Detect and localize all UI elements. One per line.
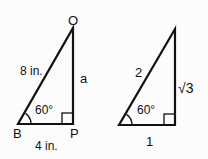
triangle-bop: O B P 8 in. a 4 in. 60°: [13, 13, 88, 153]
angle-arc: [26, 113, 32, 124]
angle-label: 60°: [137, 103, 155, 117]
right-angle-marker: [164, 114, 175, 125]
vertex-label-p: P: [70, 126, 79, 141]
hypotenuse-label: 2: [135, 65, 142, 80]
triangle-diagram: O B P 8 in. a 4 in. 60° 2 √3 1 60°: [0, 0, 208, 159]
base-label: 4 in.: [35, 139, 58, 153]
base-label: 1: [146, 134, 153, 149]
vertex-label-o: O: [68, 13, 78, 28]
vertex-label-b: B: [13, 126, 22, 141]
side-label-sqrt3: √3: [178, 80, 194, 96]
triangle-unit: 2 √3 1 60°: [119, 29, 194, 149]
right-angle-marker: [62, 113, 73, 124]
angle-arc: [127, 114, 133, 125]
hypotenuse-label: 8 in.: [20, 64, 43, 78]
side-label-a: a: [80, 71, 88, 86]
angle-label: 60°: [35, 103, 53, 117]
